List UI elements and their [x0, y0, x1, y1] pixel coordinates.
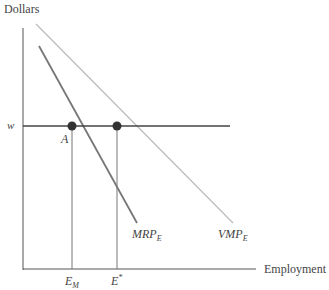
- point-a-label: A: [61, 133, 68, 145]
- em-tick-label: EM: [65, 275, 79, 290]
- point-a: [68, 122, 77, 131]
- vmp-curve: [36, 24, 233, 223]
- mrp-curve: [39, 46, 137, 223]
- y-axis-label: Dollars: [4, 3, 39, 15]
- diagram-canvas: [0, 0, 329, 290]
- mrp-label: MRPE: [132, 228, 162, 243]
- x-axis-label: Employment: [264, 263, 326, 275]
- vmp-label: VMPE: [218, 228, 248, 243]
- wage-label: w: [7, 120, 14, 131]
- point-estar: [113, 122, 122, 131]
- estar-tick-label: E*: [111, 274, 122, 287]
